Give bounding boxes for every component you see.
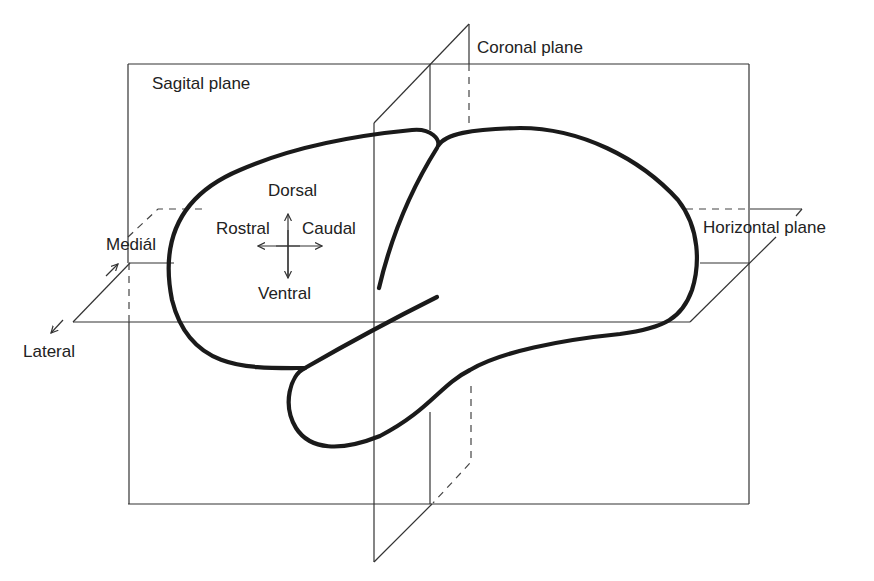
lateral-sulcus: [305, 297, 437, 368]
horizontal-plane-right-diag-top: [796, 209, 802, 216]
rostral-label: Rostral: [216, 219, 270, 238]
central-sulcus: [379, 148, 437, 288]
ventral-label: Ventral: [258, 284, 311, 303]
horizontal-plane-right-diag: [690, 237, 776, 322]
coronal-top-diag: [374, 24, 469, 123]
caudal-label: Caudal: [302, 219, 356, 238]
lateral-arrow: [51, 320, 63, 333]
horizontal-plane-label: Horizontal plane: [703, 218, 826, 237]
cerebrum-outline: [169, 128, 697, 446]
medial-arrow: [106, 264, 118, 276]
coronal-bottom-diag: [374, 504, 432, 562]
sagittal-plane: [128, 64, 749, 504]
direction-arrows: [51, 214, 322, 333]
sagittal-plane-label: Sagital plane: [152, 74, 250, 93]
dorsal-label: Dorsal: [268, 181, 317, 200]
brain-planes-diagram: Sagital plane Coronal plane Horizontal p…: [0, 0, 874, 581]
labels: Sagital plane Coronal plane Horizontal p…: [23, 38, 826, 361]
medial-label: Mediál: [106, 235, 156, 254]
lateral-label: Lateral: [23, 342, 75, 361]
coronal-plane: [374, 24, 471, 562]
horizontal-plane-back-edge-left: [128, 209, 208, 237]
brain-outline: [169, 128, 697, 446]
coronal-plane-label: Coronal plane: [477, 38, 583, 57]
horizontal-plane-left-diag: [73, 263, 130, 322]
coronal-back-edge-dashed-bottom: [433, 386, 471, 503]
